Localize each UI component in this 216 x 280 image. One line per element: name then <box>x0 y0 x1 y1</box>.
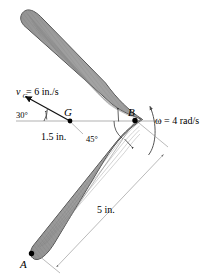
point-a-dot <box>29 251 34 256</box>
velocity-label-value: = 6 in./s <box>26 86 59 97</box>
omega-label: ω = 4 rad/s <box>155 115 199 126</box>
dim-gb-label: 1.5 in. <box>41 131 66 142</box>
omega-curved-arrow <box>149 107 156 156</box>
angle-45-tick-vertical <box>118 111 119 122</box>
figure-canvas: v G = 6 in./s 30° G B A ω = 4 rad/s 1.5 … <box>0 0 216 280</box>
velocity-label-symbol: v <box>16 86 21 97</box>
point-g-dot <box>68 119 73 124</box>
point-b-label: B <box>128 106 135 118</box>
boomerang-body <box>21 10 143 260</box>
angle-30-label: 30° <box>16 110 28 120</box>
angle-45-label: 45° <box>86 134 98 144</box>
dim-gb-leader <box>70 122 83 135</box>
point-a-label: A <box>19 258 27 270</box>
dimension-ab <box>33 123 168 273</box>
dim-ab-label: 5 in. <box>97 204 115 215</box>
point-g-label: G <box>64 106 72 118</box>
point-b-dot <box>132 118 137 123</box>
kinematics-figure: v G = 6 in./s 30° G B A ω = 4 rad/s 1.5 … <box>0 0 216 280</box>
